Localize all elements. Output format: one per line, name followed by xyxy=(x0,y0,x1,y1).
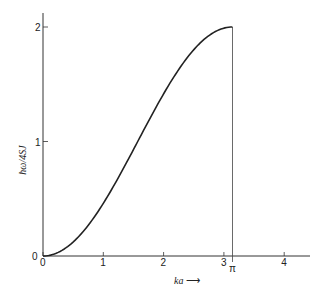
y-ticks: 12 xyxy=(35,22,48,148)
x-tick-label: 1 xyxy=(100,257,106,268)
dispersion-curve xyxy=(43,27,232,256)
x-axis-arrow: ⟶ xyxy=(186,275,200,286)
x-ticks: 01234 xyxy=(40,252,287,268)
x-tick-label: 0 xyxy=(40,257,46,268)
y-tick-label: 2 xyxy=(35,22,41,33)
x-axis-label: ka xyxy=(174,275,183,286)
origin-y-label: 0 xyxy=(32,251,38,262)
x-tick-label: 3 xyxy=(221,257,227,268)
y-tick-label: 1 xyxy=(35,137,41,148)
x-tick-label: 2 xyxy=(161,257,167,268)
x-tick-label: 4 xyxy=(281,257,287,268)
y-axis-label: ħω/4SJ xyxy=(17,145,28,175)
dispersion-chart: 01234 12 π 0 ħω/4SJ ka ⟶ xyxy=(0,0,322,294)
pi-tick-label: π xyxy=(229,263,236,274)
